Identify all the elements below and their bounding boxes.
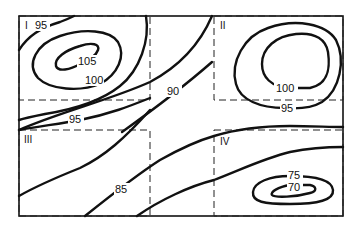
quadrant-box-3 (19, 130, 150, 216)
quadrant-label-4: IV (220, 136, 230, 147)
contour-label-70: 70 (288, 181, 300, 193)
contour-label-105: 105 (78, 55, 96, 67)
contour-label-100-q2: 100 (276, 82, 294, 94)
contour-lower-iv (137, 147, 343, 216)
contour-label-75: 75 (288, 169, 300, 181)
contour-label-100-q1: 100 (85, 74, 103, 86)
contour-label-95-q1: 95 (35, 19, 47, 31)
quadrant-label-1: I (25, 20, 28, 31)
contour-label-95-q2: 95 (281, 102, 293, 114)
contour-diagram: 95 105 100 90 100 95 95 85 75 70 I II II… (0, 0, 361, 226)
contour-q2-100 (262, 34, 329, 88)
quadrant-label-2: II (220, 20, 226, 31)
contour-label-90: 90 (167, 85, 179, 97)
contour-label-85: 85 (115, 183, 127, 195)
quadrant-label-3: III (24, 134, 32, 145)
contour-label-95-left: 95 (69, 113, 81, 125)
